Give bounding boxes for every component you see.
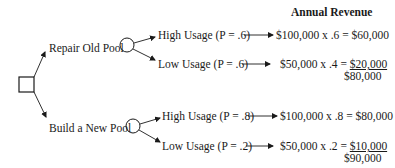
outcome-result: $20,000 (350, 58, 387, 70)
outcome-result: $80,000 (356, 110, 393, 122)
outcome-result: $60,000 (352, 29, 389, 41)
branch-total-repair: $80,000 (344, 70, 381, 83)
decision-node-square (19, 77, 34, 92)
branch-total-build: $90,000 (344, 152, 381, 165)
branch-label-repair: Repair Old Pool (49, 42, 124, 55)
column-title: Annual Revenue (291, 6, 372, 19)
outcome-result: $10,000 (350, 140, 387, 152)
outcome-label: High Usage (P = .8) (162, 110, 254, 123)
outcome-label: High Usage (P = .6) (158, 29, 250, 42)
outcome-calc: $100,000 x .8 = $80,000 (280, 110, 393, 123)
outcome-calc: $100,000 x .6 = $60,000 (276, 29, 389, 42)
outcome-label: Low Usage (P = .6) (158, 58, 248, 71)
branch-label-build: Build a New Pool (49, 122, 131, 135)
outcome-label: Low Usage (P = .2) (162, 140, 252, 153)
